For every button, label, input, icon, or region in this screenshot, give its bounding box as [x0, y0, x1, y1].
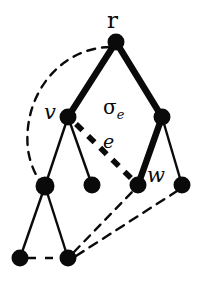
sigma-glyph: σ: [103, 95, 117, 119]
edge-lower-left-to-bottom-right: [45, 186, 68, 258]
sigma-subscript: e: [117, 107, 125, 122]
edge-label-e: e: [103, 132, 114, 151]
label-sigma-e: σe: [103, 97, 124, 121]
graph-figure: r v w e σe: [0, 0, 205, 288]
node-bottom-right: [60, 250, 77, 267]
dashed-edge-bottom-to-w: [74, 191, 133, 252]
node-v-child: [84, 177, 101, 194]
node-r: [108, 34, 125, 51]
edge-v-to-child-left: [45, 117, 68, 186]
node-lower-left: [36, 177, 55, 196]
node-rightmost: [174, 177, 191, 194]
node-bottom-left: [12, 250, 29, 267]
node-label-r: r: [107, 9, 118, 32]
edge-lower-left-to-bottom-left: [20, 186, 45, 258]
dashed-edge-bottom-to-rightmost: [76, 191, 177, 256]
node-v: [60, 109, 77, 126]
node-label-w: w: [147, 165, 165, 186]
edge-x-to-child-right: [162, 117, 182, 185]
node-w: [130, 177, 147, 194]
node-label-v: v: [44, 102, 56, 123]
node-right-middle: [154, 109, 171, 126]
